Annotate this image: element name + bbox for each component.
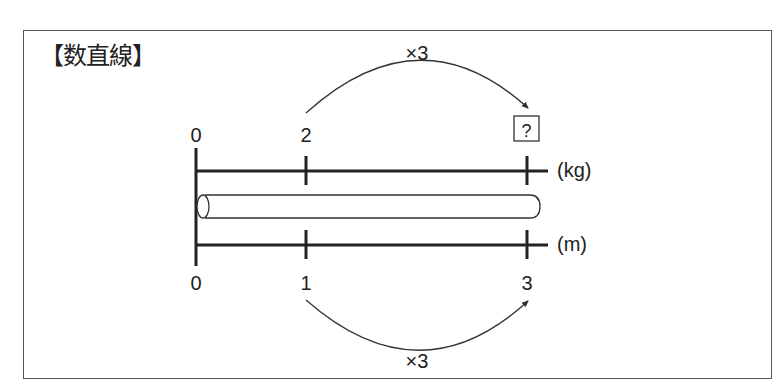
- number-line-diagram: ×3 0 2 ? (kg) (m) 0 1 3 ×3: [0, 0, 783, 391]
- m-unit-label: (m): [557, 233, 587, 255]
- top-arrow-label: ×3: [406, 42, 429, 64]
- unknown-answer-mark: ?: [521, 121, 531, 141]
- kg-unit-label: (kg): [557, 159, 591, 181]
- bottom-arrow-label: ×3: [406, 350, 429, 372]
- bottom-label-0: 0: [190, 272, 201, 294]
- top-label-2: 2: [300, 124, 311, 146]
- bottom-multiply-arrow: [306, 300, 528, 350]
- pipe-body: [205, 195, 540, 218]
- pipe-end: [197, 195, 209, 218]
- top-label-0: 0: [190, 124, 201, 146]
- bottom-label-3: 3: [521, 272, 532, 294]
- bottom-label-1: 1: [300, 272, 311, 294]
- top-multiply-arrow: [306, 60, 528, 113]
